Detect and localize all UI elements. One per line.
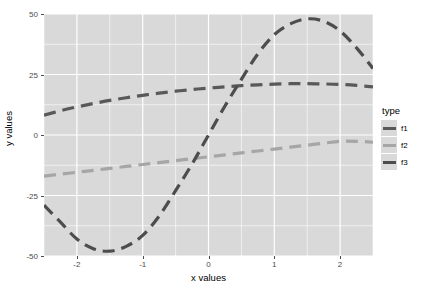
legend-key-f3 — [381, 154, 397, 170]
plot-panel — [44, 14, 373, 256]
series-line-f1 — [44, 84, 373, 116]
x-tick-label: 2 — [325, 260, 355, 269]
legend-item-f2[interactable]: f2 — [381, 137, 425, 153]
legend-key-line-icon — [383, 161, 396, 164]
x-tick-mark — [209, 256, 210, 259]
y-tick-label: -25 — [14, 191, 38, 200]
series-lines — [44, 14, 373, 256]
legend-item-f3[interactable]: f3 — [381, 154, 425, 170]
legend: type f1f2f3 — [381, 105, 425, 171]
y-axis-tick-labels: -50-2502550 — [12, 0, 38, 293]
legend-label: f3 — [401, 158, 408, 167]
legend-label: f2 — [401, 141, 408, 150]
y-tick-label: 25 — [14, 70, 38, 79]
x-tick-label: 1 — [259, 260, 289, 269]
y-tick-label: 50 — [14, 10, 38, 19]
legend-key-f2 — [381, 137, 397, 153]
legend-item-f1[interactable]: f1 — [381, 120, 425, 136]
chart-container: y values -50-2502550 -2-1012 x values ty… — [0, 0, 425, 293]
legend-label: f1 — [401, 124, 408, 133]
x-axis-title: x values — [44, 272, 373, 283]
y-tick-label: 0 — [14, 131, 38, 140]
legend-key-line-icon — [383, 127, 396, 130]
x-tick-label: -2 — [62, 260, 92, 269]
legend-title: type — [381, 105, 425, 116]
legend-key-f1 — [381, 120, 397, 136]
legend-items: f1f2f3 — [381, 120, 425, 170]
x-tick-mark — [143, 256, 144, 259]
legend-key-line-icon — [383, 144, 396, 147]
x-tick-label: 0 — [194, 260, 224, 269]
series-line-f2 — [44, 141, 373, 176]
x-tick-mark — [340, 256, 341, 259]
series-line-f3 — [44, 19, 373, 252]
x-tick-label: -1 — [128, 260, 158, 269]
x-tick-mark — [274, 256, 275, 259]
x-tick-mark — [77, 256, 78, 259]
